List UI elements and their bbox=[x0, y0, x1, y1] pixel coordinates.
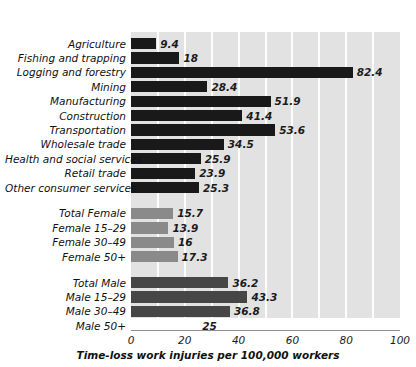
x-axis-title: Time-loss work injuries per 100,000 work… bbox=[0, 349, 416, 361]
bar bbox=[131, 222, 168, 233]
bar-value-label: 34.5 bbox=[224, 137, 254, 151]
bar-row bbox=[131, 94, 400, 108]
category-label: Total Male bbox=[5, 276, 131, 290]
category-label: Mining bbox=[5, 80, 131, 94]
category-label: Health and social services bbox=[5, 152, 131, 166]
bar-row bbox=[131, 123, 400, 137]
bar-value-label: 36.8 bbox=[230, 304, 260, 318]
bar bbox=[131, 124, 275, 135]
bar-row bbox=[131, 206, 400, 220]
bar-value-label: 13.9 bbox=[168, 221, 198, 235]
bar bbox=[131, 277, 228, 288]
bar-value-label: 53.6 bbox=[275, 123, 305, 137]
category-label: Other consumer services bbox=[5, 181, 131, 195]
bar bbox=[131, 67, 353, 78]
bar-value-label: 82.4 bbox=[353, 65, 383, 79]
bar-row bbox=[131, 235, 400, 249]
bar bbox=[131, 208, 173, 219]
category-label: Manufacturing bbox=[5, 94, 131, 108]
category-label: Transportation bbox=[5, 123, 131, 137]
bar bbox=[131, 237, 174, 248]
bar-value-label: 41.4 bbox=[242, 109, 272, 123]
bar bbox=[131, 139, 224, 150]
bar-value-label: 17.3 bbox=[178, 250, 208, 264]
bar-value-label: 23.9 bbox=[195, 166, 225, 180]
bar-row bbox=[131, 137, 400, 151]
bar-value-label: 43.3 bbox=[247, 290, 277, 304]
category-label: Female 15–29 bbox=[5, 221, 131, 235]
bar-value-label: 51.9 bbox=[271, 94, 301, 108]
bar-value-label: 15.7 bbox=[173, 206, 203, 220]
bar-row bbox=[131, 304, 400, 318]
x-tick-label: 0 bbox=[111, 334, 151, 346]
bar bbox=[131, 110, 242, 121]
x-tick-label: 100 bbox=[380, 334, 416, 346]
bar bbox=[131, 81, 207, 92]
bar-row bbox=[131, 181, 400, 195]
bar bbox=[131, 38, 156, 49]
x-tick-label: 60 bbox=[272, 334, 312, 346]
bar-value-label: 25.9 bbox=[201, 152, 231, 166]
bar-row bbox=[131, 80, 400, 94]
bar-value-label: 9.4 bbox=[156, 37, 179, 51]
bar bbox=[131, 306, 230, 317]
category-label: Logging and forestry bbox=[5, 65, 131, 79]
bar-value-label: 25.3 bbox=[199, 181, 229, 195]
category-label: Total Female bbox=[5, 206, 131, 220]
x-tick-label: 80 bbox=[326, 334, 366, 346]
bar-row bbox=[131, 250, 400, 264]
category-label: Male 30–49 bbox=[5, 304, 131, 318]
bar-row bbox=[131, 276, 400, 290]
bar bbox=[131, 52, 179, 63]
bar bbox=[131, 168, 195, 179]
bar-row bbox=[131, 152, 400, 166]
category-label: Agriculture bbox=[5, 37, 131, 51]
x-tick-label: 20 bbox=[165, 334, 205, 346]
bar bbox=[131, 96, 271, 107]
bar-row bbox=[131, 51, 400, 65]
bar-value-label: 18 bbox=[179, 51, 198, 65]
category-label: Construction bbox=[5, 109, 131, 123]
bar-value-label: 36.2 bbox=[228, 276, 258, 290]
category-label: Female 50+ bbox=[5, 250, 131, 264]
bar bbox=[131, 291, 247, 302]
bar bbox=[131, 182, 199, 193]
category-label: Female 30–49 bbox=[5, 235, 131, 249]
category-label: Wholesale trade bbox=[5, 137, 131, 151]
category-label: Retail trade bbox=[5, 166, 131, 180]
bar-value-label: 28.4 bbox=[207, 80, 237, 94]
bar bbox=[131, 251, 178, 262]
category-label: Male 50+ bbox=[5, 319, 131, 333]
category-label: Male 15–29 bbox=[5, 290, 131, 304]
x-tick-label: 40 bbox=[219, 334, 259, 346]
bar-value-label: 16 bbox=[174, 235, 193, 249]
x-axis-line bbox=[131, 330, 400, 331]
bar-row bbox=[131, 166, 400, 180]
category-label: Fishing and trapping bbox=[5, 51, 131, 65]
bar-chart: AgricultureFishing and trappingLogging a… bbox=[0, 0, 416, 367]
